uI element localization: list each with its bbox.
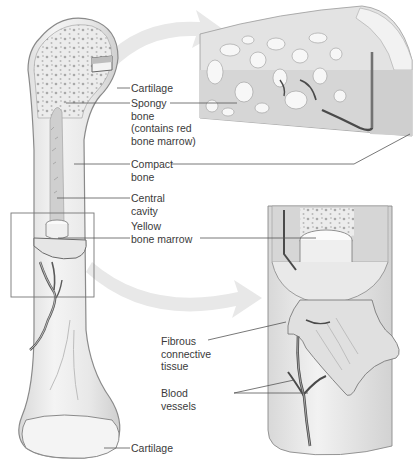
label-central-cavity: Central cavity [131, 192, 165, 217]
label-yellow-bone-marrow: Yellow bone marrow [131, 220, 192, 245]
label-cartilage-top: Cartilage [131, 82, 173, 95]
label-cartilage-bottom: Cartilage [131, 442, 173, 455]
bottom-arrow [86, 262, 262, 318]
top-inset-spongy-bone [200, 6, 412, 136]
leader-compact-bone-right [171, 134, 410, 164]
label-spongy-bone: Spongy bone (contains red bone marrow) [131, 97, 196, 147]
label-compact-bone: Compact bone [131, 158, 173, 183]
bone-diagram-illustration [0, 0, 419, 473]
bottom-inset-shaft [268, 206, 399, 455]
label-fibrous-connective-tissue: Fibrous connective tissue [161, 335, 211, 373]
label-blood-vessels: Blood vessels [161, 387, 196, 412]
